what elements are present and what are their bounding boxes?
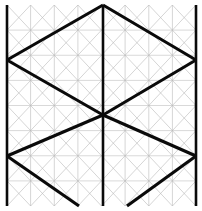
mesh-diagram <box>0 0 202 211</box>
figure-root <box>0 0 202 211</box>
